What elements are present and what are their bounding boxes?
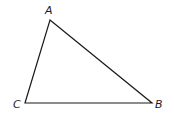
vertex-label-a: A xyxy=(44,4,53,17)
triangle-abc xyxy=(25,20,152,103)
triangle-diagram: A B C xyxy=(0,0,174,116)
vertex-label-c: C xyxy=(13,98,21,111)
vertex-label-b: B xyxy=(155,98,163,111)
